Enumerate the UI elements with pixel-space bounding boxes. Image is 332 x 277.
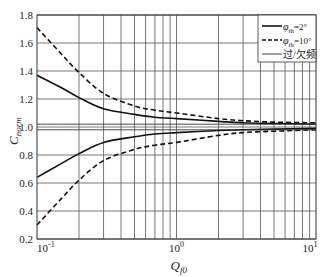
y-axis-title: Cnorm [6, 117, 23, 145]
y-tick-label: 0.2 [19, 233, 33, 245]
y-tick-label: 1.2 [19, 93, 33, 105]
y-tick-label: 1.4 [19, 65, 33, 77]
y-tick-label: 0.8 [19, 149, 33, 161]
y-tick-label: 1.8 [19, 9, 33, 21]
x-axis-title: Qf0 [171, 258, 188, 275]
x-tick-label: 10-1 [37, 240, 55, 254]
y-tick-label: 1.6 [19, 37, 33, 49]
y-axis-label: Cnorm [6, 117, 23, 145]
y-tick-label: 0.4 [19, 205, 33, 217]
x-axis-ticks: 10-1100101 [37, 240, 318, 254]
chart: 0.20.40.60.81.01.21.41.61.8 10-1100101 C… [0, 0, 332, 277]
y-tick-label: 0.6 [19, 177, 33, 189]
legend-label: 过/欠频 [283, 48, 316, 60]
x-axis-label: Qf0 [171, 258, 188, 275]
x-tick-label: 101 [303, 240, 318, 254]
legend: φth=2°φth=10°过/欠频 [258, 15, 316, 62]
x-tick-label: 100 [169, 240, 184, 254]
